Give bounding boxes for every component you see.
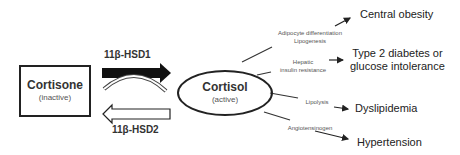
mechanism-lipolysis: Lipolysis: [297, 98, 337, 106]
enzyme-reverse-label: 11β-HSD2: [112, 124, 159, 135]
reverse-arrow-icon: [103, 105, 170, 123]
mechanism-adipocyte: Adipocyte differentiation Lipogenesis: [255, 29, 365, 45]
cortisone-node: Cortisone (inactive): [19, 65, 91, 117]
outcome-hypertension: Hypertension: [357, 136, 422, 149]
outcome-central-obesity: Central obesity: [360, 8, 433, 21]
curved-cofactor-arrow-icon: [104, 76, 166, 91]
outcome-type2-diabetes: Type 2 diabetes or glucose intolerance: [350, 47, 445, 73]
cortisone-status: (inactive): [21, 93, 89, 102]
cortisol-label: Cortisol: [179, 80, 271, 94]
forward-arrow-icon: [102, 63, 171, 83]
cortisol-status: (active): [179, 95, 271, 104]
diagram-canvas: Cortisone (inactive) Cortisol (active) 1…: [0, 0, 460, 155]
cortisone-label: Cortisone: [21, 78, 89, 92]
enzyme-forward-label: 11β-HSD1: [104, 49, 151, 60]
mechanism-hepatic: Hepatic insulin resistance: [273, 58, 333, 74]
cortisol-node: Cortisol (active): [177, 70, 273, 116]
mechanism-angiotensinogen: Angiotensinogen: [280, 124, 340, 132]
outcome-dyslipidemia: Dyslipidemia: [355, 102, 417, 115]
